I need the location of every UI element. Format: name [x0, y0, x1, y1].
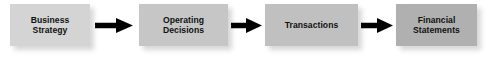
arrow-right-icon-1 [95, 18, 133, 33]
node-operating-decisions: Operating Decisions [139, 4, 228, 46]
node-business-strategy: Business Strategy [10, 4, 90, 46]
process-flow-diagram: Business Strategy Operating Decisions Tr… [0, 0, 495, 58]
node-label-operating-decisions: Operating Decisions [160, 15, 207, 36]
arrow-right-icon-3 [361, 18, 393, 33]
node-label-business-strategy: Business Strategy [28, 15, 73, 36]
node-transactions: Transactions [265, 4, 358, 46]
node-label-transactions: Transactions [282, 20, 342, 31]
node-financial-statements: Financial Statements [396, 4, 477, 46]
arrow-right-icon-2 [231, 18, 262, 33]
node-label-financial-statements: Financial Statements [410, 15, 463, 36]
